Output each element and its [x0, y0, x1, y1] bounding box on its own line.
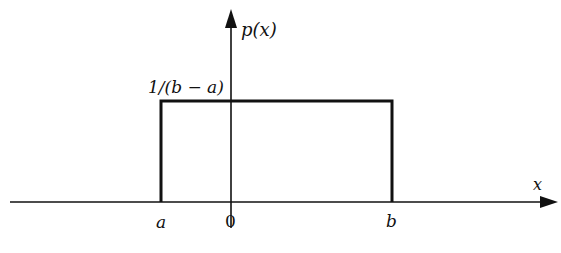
tick-label-b: b	[386, 211, 397, 231]
height-label: 1/(b − a)	[148, 77, 224, 97]
tick-label-a: a	[156, 212, 166, 232]
x-axis-label: x	[533, 175, 542, 194]
y-axis-label: p(x)	[241, 19, 277, 40]
pdf-curve	[161, 101, 392, 202]
tick-label-zero: 0	[225, 211, 236, 231]
y-axis-arrow-icon	[225, 9, 237, 28]
x-axis-arrow-icon	[540, 196, 558, 208]
uniform-distribution-diagram: p(x) x 1/(b − a) a 0 b	[0, 0, 561, 253]
